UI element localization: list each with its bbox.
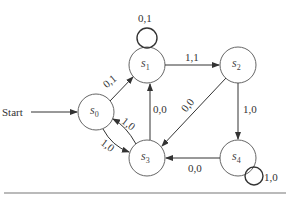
state-s4: s4 [220,140,256,176]
edge-s2-s3-label: 0,0 [178,95,196,114]
state-diagram: Start s0 s1 s2 s3 s4 0,1 0,1 1,1 0,0 1,0… [0,0,290,197]
state-s0: s0 [78,94,114,130]
state-s2: s2 [220,47,256,83]
edge-s0-s3-label: 1,0 [99,136,118,154]
edge-s1-s2-label: 1,1 [185,51,199,63]
state-s1: s1 [129,47,165,83]
edge-s3-s1-label: 0,0 [153,103,167,115]
edge-s1-s1 [137,28,157,48]
start-label: Start [2,106,23,118]
edge-s4-s3-label: 0,0 [188,162,202,174]
edge-s3-s0-label: 1,0 [120,115,139,133]
edge-s4-s4-label: 1,0 [264,171,278,183]
edge-s4-s4 [245,167,263,185]
edge-s2-s3 [162,78,226,146]
edge-s2-s4-label: 1,0 [243,103,257,115]
state-s3: s3 [129,140,165,176]
edge-s0-s1-label: 0,1 [100,72,118,90]
edge-s1-s1-label: 0,1 [138,12,152,24]
